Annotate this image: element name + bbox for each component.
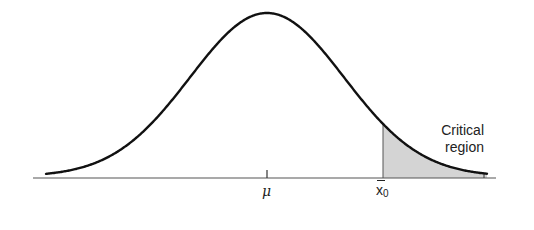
critical-value-subscript: 0: [383, 188, 389, 199]
mean-label: μ: [262, 183, 271, 199]
normal-distribution-figure: Critical region μ x0: [0, 0, 534, 230]
critical-region-label-line2: region: [420, 139, 484, 156]
critical-region-label: Critical region: [420, 122, 484, 156]
critical-region-label-line1: Critical: [420, 122, 484, 139]
critical-value-label: x0: [376, 180, 389, 199]
bar-overline: [377, 180, 385, 181]
critical-value-base: x: [376, 182, 383, 198]
